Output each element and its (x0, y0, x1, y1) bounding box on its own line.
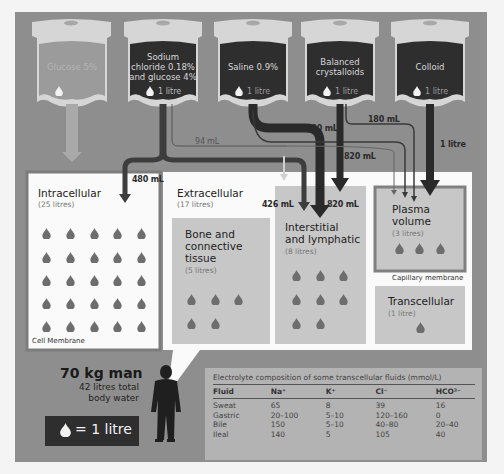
bag-label-line: and glucose 4% (128, 72, 198, 82)
bag-label-line: Balanced (305, 57, 375, 67)
cell: Gastric (213, 411, 271, 421)
table-header-row: Fluid Na⁺ K⁺ Cl⁻ HCO³⁻ (213, 385, 475, 399)
cell: Bile (213, 420, 271, 430)
cell: 5 (326, 430, 376, 440)
bag-label-saline: Saline 0.9% (220, 62, 286, 72)
flow-label-820ml-saline: 820 mL (327, 200, 359, 209)
flow-label-180ml-saline: 180 mL (306, 124, 338, 133)
bag-label-balanced: Balanced crystalloids (305, 57, 375, 77)
col-header: K⁺ (326, 385, 376, 399)
flow-label-426ml: 426 mL (262, 200, 294, 209)
bag-label-nacl-glucose: Sodium chloride 0.18% and glucose 4% (128, 52, 198, 82)
flow-label-180ml-balanced: 180 mL (368, 115, 400, 124)
col-header: Cl⁻ (375, 385, 435, 399)
man-title: 70 kg man (60, 365, 139, 381)
table-caption: Electrolyte composition of some transcel… (213, 373, 475, 382)
cell: 39 (375, 399, 435, 411)
table-row: Sweat6583916 (213, 399, 475, 411)
plasma-title: Plasma volume (392, 203, 431, 227)
cell-membrane-label: Cell Membrane (32, 337, 85, 345)
cell: 8 (326, 399, 376, 411)
bag-volume-nacl-glucose: 1 litre (158, 87, 181, 96)
cell: 120–160 (375, 411, 435, 421)
interstitial-title: Interstitial and lymphatic (285, 221, 360, 245)
cell: Ileal (213, 430, 271, 440)
bag-label-line: crystalloids (305, 67, 375, 77)
bag-volume-colloid: 1 litre (425, 87, 448, 96)
extracellular-volume: (17 litres) (177, 200, 213, 209)
plasma-title-line: volume (392, 215, 431, 227)
transcellular-volume: (1 litre) (388, 309, 416, 318)
interstitial-title-line: and lymphatic (285, 233, 360, 245)
bag-label-colloid: Colloid (397, 62, 463, 72)
cell: 40 (436, 430, 475, 440)
interstitial-title-line: Interstitial (285, 221, 360, 233)
flow-label-94ml: 94 mL (195, 137, 219, 146)
cell: 65 (271, 399, 326, 411)
plasma-title-line: Plasma (392, 203, 431, 215)
bone-title: Bone and connective tissue (185, 228, 242, 264)
bag-volume-balanced: 1 litre (335, 87, 358, 96)
bag-label-line: chloride 0.18% (128, 62, 198, 72)
bone-title-line: Bone and (185, 228, 242, 240)
capillary-membrane-label: Capillary membrane (392, 274, 463, 282)
col-header: Fluid (213, 385, 271, 399)
cell: 105 (375, 430, 435, 440)
extracellular-title: Extracellular (177, 187, 243, 199)
bone-title-line: connective (185, 240, 242, 252)
cell: 16 (436, 399, 475, 411)
table-row: Ileal140510540 (213, 430, 475, 440)
col-header: Na⁺ (271, 385, 326, 399)
intracellular-volume: (25 litres) (38, 200, 74, 209)
col-header: HCO³⁻ (436, 385, 475, 399)
flow-label-1-litre: 1 litre (440, 140, 466, 149)
bone-volume: (5 litres) (185, 266, 217, 275)
cell: Sweat (213, 399, 271, 411)
electrolyte-table: Electrolyte composition of some transcel… (213, 373, 475, 439)
cell: 5–10 (326, 411, 376, 421)
flow-label-480ml: 480 mL (132, 175, 164, 184)
bag-volume-saline: 1 litre (247, 87, 270, 96)
cell: 140 (271, 430, 326, 440)
cell: 150 (271, 420, 326, 430)
man-line1: 42 litres total (40, 382, 139, 393)
plasma-volume: (3 litres) (392, 229, 424, 238)
bag-label-line: Sodium (128, 52, 198, 62)
cell: 0 (436, 411, 475, 421)
cell: 20–100 (271, 411, 326, 421)
cell: 20–40 (436, 420, 475, 430)
man-description: 42 litres total body water (40, 382, 139, 404)
intracellular-title: Intracellular (38, 187, 101, 199)
interstitial-volume: (8 litres) (285, 247, 317, 256)
bone-title-line: tissue (185, 252, 242, 264)
table-row: Gastric20–1005–10120–1600 (213, 411, 475, 421)
legend-text: = 1 litre (75, 421, 132, 437)
cell: 5–10 (326, 420, 376, 430)
transcellular-title: Transcellular (388, 295, 454, 307)
flow-label-820ml-balanced: 820 mL (344, 152, 376, 161)
man-line2: body water (40, 393, 139, 404)
cell: 40–80 (375, 420, 435, 430)
bag-label-glucose: Glucose 5% (39, 62, 105, 72)
table-row: Bile1505–1040–8020–40 (213, 420, 475, 430)
